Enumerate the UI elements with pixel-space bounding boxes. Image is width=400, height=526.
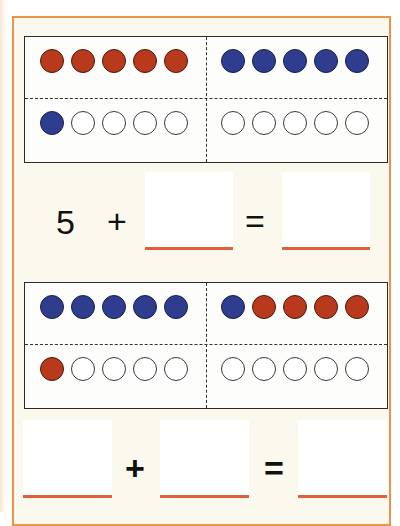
blue-counter-icon [133, 295, 157, 319]
equals-sign: = [245, 204, 265, 238]
answer-box-sum[interactable] [298, 420, 387, 498]
blue-counter-icon [221, 49, 245, 73]
empty-counter-icon [283, 111, 307, 135]
plus-sign: + [107, 204, 127, 238]
empty-counter-icon [314, 357, 338, 381]
red-counter-icon [252, 295, 276, 319]
counters-top-right [221, 295, 369, 319]
counters-bottom-right [221, 111, 369, 135]
counters-top-right [221, 49, 369, 73]
red-counter-icon [102, 49, 126, 73]
empty-counter-icon [283, 357, 307, 381]
blue-counter-icon [221, 295, 245, 319]
empty-counter-icon [102, 357, 126, 381]
empty-counter-icon [71, 111, 95, 135]
empty-counter-icon [164, 357, 188, 381]
red-counter-icon [40, 357, 64, 381]
red-counter-icon [345, 295, 369, 319]
empty-counter-icon [221, 111, 245, 135]
blue-counter-icon [71, 295, 95, 319]
blue-counter-icon [283, 49, 307, 73]
counters-top-left [40, 49, 188, 73]
counters-bottom-left [40, 111, 188, 135]
empty-counter-icon [133, 111, 157, 135]
empty-counter-icon [164, 111, 188, 135]
blue-counter-icon [164, 295, 188, 319]
empty-counter-icon [252, 111, 276, 135]
red-counter-icon [283, 295, 307, 319]
answer-box-sum[interactable] [282, 172, 370, 250]
red-counter-icon [40, 49, 64, 73]
red-counter-icon [133, 49, 157, 73]
counters-bottom-left [40, 357, 188, 381]
blue-counter-icon [252, 49, 276, 73]
blue-counter-icon [40, 111, 64, 135]
first-addend: 5 [56, 205, 75, 239]
empty-counter-icon [345, 111, 369, 135]
blue-counter-icon [40, 295, 64, 319]
empty-counter-icon [102, 111, 126, 135]
answer-box-first-addend[interactable] [23, 420, 112, 498]
red-counter-icon [71, 49, 95, 73]
empty-counter-icon [252, 357, 276, 381]
blue-counter-icon [102, 295, 126, 319]
empty-counter-icon [314, 111, 338, 135]
equals-sign: = [264, 451, 284, 485]
plus-sign: + [125, 451, 145, 485]
horizontal-divider [25, 98, 387, 99]
horizontal-divider [25, 344, 387, 345]
counters-top-left [40, 295, 188, 319]
answer-box-addend[interactable] [145, 172, 233, 250]
page-edge [0, 0, 6, 512]
empty-counter-icon [133, 357, 157, 381]
counters-bottom-right [221, 357, 369, 381]
answer-box-second-addend[interactable] [160, 420, 249, 498]
empty-counter-icon [345, 357, 369, 381]
ten-frame-1 [24, 36, 388, 163]
red-counter-icon [164, 49, 188, 73]
blue-counter-icon [345, 49, 369, 73]
blue-counter-icon [314, 49, 338, 73]
empty-counter-icon [71, 357, 95, 381]
empty-counter-icon [221, 357, 245, 381]
ten-frame-2 [24, 282, 388, 409]
red-counter-icon [314, 295, 338, 319]
